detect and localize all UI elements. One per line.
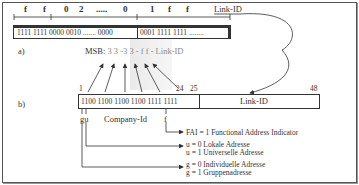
diagram-lines: [0, 0, 359, 185]
